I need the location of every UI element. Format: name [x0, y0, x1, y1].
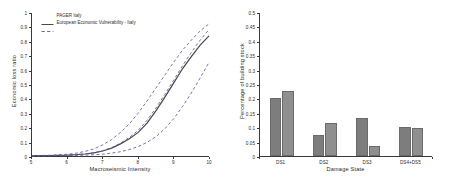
bar: [270, 98, 282, 156]
right-x-category-label: DS2: [319, 160, 328, 165]
bar: [325, 123, 337, 156]
right-x-category-label: DS1: [276, 160, 285, 165]
bar: [399, 127, 411, 156]
right-y-tick-mark: [257, 13, 259, 14]
curve-3: [32, 62, 209, 156]
bar: [356, 118, 368, 156]
left-y-tick-mark: [29, 128, 31, 129]
curve-2: [32, 29, 209, 155]
left-x-tick-mark: [173, 157, 174, 159]
right-y-tick-mark: [257, 71, 259, 72]
left-curves-svg: [32, 13, 209, 156]
figure-two-panel: 00.10.20.30.40.50.60.70.80.91 5678910 Ma…: [0, 0, 450, 184]
right-plot-area: [259, 13, 432, 157]
left-legend: PAGER Italy European Economic Vulnerabil…: [41, 12, 137, 27]
right-y-tick-mark: [257, 42, 259, 43]
left-x-tick-mark: [67, 157, 68, 159]
left-x-axis-title: Macroseismic Intensity: [31, 166, 209, 172]
right-x-category-label: DS3: [363, 160, 372, 165]
left-x-tick-label: 6: [65, 160, 68, 165]
left-y-tick-mark: [29, 114, 31, 115]
right-y-tick-mark: [257, 99, 259, 100]
left-x-tick-mark: [138, 157, 139, 159]
right-y-tick-mark: [257, 128, 259, 129]
left-x-tick-label: 5: [30, 160, 33, 165]
legend-label-pager-italy: PAGER Italy: [57, 13, 82, 18]
right-y-axis-title: Percentage of building stock: [239, 9, 245, 153]
panel-damage-state-bars: 00.050.10.150.20.250.30.350.40.450.5 DS1…: [225, 0, 450, 184]
legend-label-european-economic-vulnerability: European Economic Vulnerability - Italy: [57, 20, 136, 25]
left-y-tick-mark: [29, 143, 31, 144]
bar: [412, 128, 424, 156]
left-y-tick-mark: [29, 56, 31, 57]
left-x-tick-mark: [102, 157, 103, 159]
panel-fragility-curves: 00.10.20.30.40.50.60.70.80.91 5678910 Ma…: [0, 0, 225, 184]
left-y-tick-label: 0: [0, 155, 27, 160]
left-x-tick-label: 8: [136, 160, 139, 165]
right-x-tick-mark: [259, 157, 260, 159]
right-x-axis-title: Damage State: [259, 166, 432, 172]
left-plot-area: [31, 13, 209, 157]
left-y-tick-mark: [29, 13, 31, 14]
curve-0: [32, 36, 209, 156]
left-x-tick-mark: [209, 157, 210, 159]
right-y-tick-mark: [257, 114, 259, 115]
right-y-tick-label: 0: [225, 155, 255, 160]
right-y-tick-mark: [257, 143, 259, 144]
left-x-tick-label: 10: [206, 160, 211, 165]
bar: [313, 135, 325, 156]
right-x-tick-mark: [432, 157, 433, 159]
left-y-tick-mark: [29, 42, 31, 43]
right-y-tick-mark: [257, 85, 259, 86]
right-y-tick-mark: [257, 56, 259, 57]
curve-1: [32, 24, 209, 156]
bar: [282, 91, 294, 156]
left-y-axis-title: Economic loss ratio: [11, 9, 17, 153]
right-x-category-label: DS4+DS5: [400, 160, 421, 165]
legend-item-pager-italy: PAGER Italy: [41, 12, 137, 19]
bar: [369, 146, 381, 156]
left-x-tick-label: 7: [101, 160, 104, 165]
right-y-tick-mark: [257, 27, 259, 28]
left-y-tick-mark: [29, 27, 31, 28]
solid-line-icon: [41, 13, 54, 18]
legend-item-european-economic-vulnerability: European Economic Vulnerability - Italy: [41, 19, 137, 26]
dashed-line-icon: [41, 20, 54, 25]
left-y-tick-mark: [29, 85, 31, 86]
left-x-tick-label: 9: [172, 160, 175, 165]
left-x-tick-mark: [31, 157, 32, 159]
left-y-tick-mark: [29, 99, 31, 100]
left-y-tick-mark: [29, 71, 31, 72]
